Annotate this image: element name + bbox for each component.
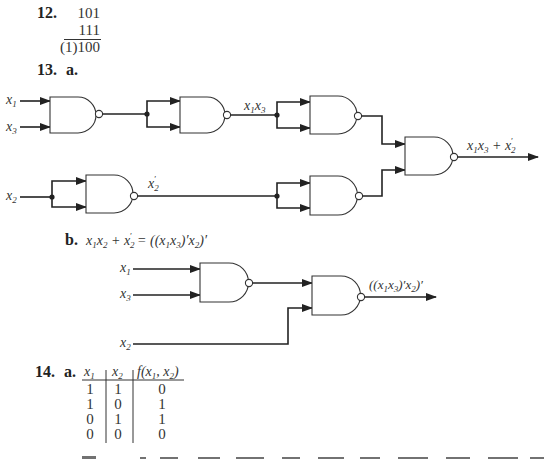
wire-x2: [133, 308, 312, 344]
inverter-bubble: [450, 153, 457, 160]
inverter-bubble: [245, 279, 252, 286]
svg-text:1: 1: [114, 411, 122, 427]
header-f: f(x1, x2): [137, 364, 179, 381]
addend-2: 111: [79, 22, 100, 38]
table-row: 1 1 0: [86, 381, 166, 397]
nand-gate-output: [405, 137, 453, 175]
input-x1-label: x1: [5, 92, 17, 109]
svg-text:0: 0: [114, 396, 122, 412]
part-a-label: a.: [64, 363, 76, 380]
nand-gate-3: [310, 96, 357, 134]
svg-text:0: 0: [86, 411, 94, 427]
input-x3-label: x3: [119, 286, 131, 303]
input-x1-label: x1: [119, 260, 131, 277]
nand-gate-4: [310, 176, 358, 215]
output-label-b: ((x1x3)′x2)′: [369, 277, 423, 294]
wire-g4-out: [363, 170, 405, 196]
problem-14-number: 14.: [35, 363, 55, 380]
table-row: 0 0 0: [86, 426, 166, 442]
part-b-equation: x1x2 + x2′ = ((x1x3)′x2)′: [85, 231, 208, 250]
input-x2-label: x2: [119, 335, 131, 352]
header-x1: x1: [83, 364, 95, 381]
circuit-b: x1 x3 x2 ((x1x3)′x2)′: [119, 260, 436, 352]
x1x3-label: x1x3: [243, 98, 266, 115]
inverter-bubble: [354, 112, 361, 119]
inverter-bubble: [357, 293, 364, 300]
svg-text:1: 1: [86, 396, 94, 412]
inverter-bubble: [355, 192, 362, 199]
problem-13-number: 13.: [37, 61, 57, 78]
nand-gate-1: [50, 97, 96, 133]
nand-gate-b1: [200, 263, 249, 302]
input-x2-label: x2: [5, 188, 17, 205]
svg-text:0: 0: [86, 426, 94, 442]
nand-gate-2: [180, 97, 225, 133]
table-row: 0 1 1: [86, 411, 166, 427]
svg-text:0: 0: [158, 381, 166, 397]
x2-prime-label: x2′: [147, 174, 159, 193]
nand-gate-b2: [312, 276, 361, 315]
problem-12: 12. 101 111 (1)100: [37, 4, 101, 56]
part-b-label: b.: [65, 231, 78, 248]
addend-1: 101: [78, 5, 101, 21]
table-row: 1 0 1: [86, 396, 166, 412]
inverter-bubble: [130, 192, 137, 199]
inverter-bubble: [95, 110, 102, 117]
part-a-label: a.: [66, 61, 78, 78]
svg-text:1: 1: [86, 381, 94, 397]
svg-text:0: 0: [158, 426, 166, 442]
circuit-a: x1 x3 x2 x1x3 x2′: [5, 92, 538, 215]
svg-text:1: 1: [158, 396, 166, 412]
header-x2: x2: [111, 364, 123, 381]
sum: (1)100: [60, 39, 100, 56]
svg-text:0: 0: [114, 426, 122, 442]
input-x3-label: x3: [5, 119, 17, 136]
wire-g3-out: [362, 116, 405, 144]
inverter-bubble: [223, 111, 230, 118]
output-label-a: x1x3 + x2′: [466, 136, 516, 155]
solutions-page: 12. 101 111 (1)100 13. a. x1 x3 x2 x1x3: [0, 0, 547, 459]
truth-table: x1 x2 f(x1, x2) 1 1 0 1 0 1 0 1 1 0 0 0: [82, 364, 184, 443]
nand-gate-x2: [86, 175, 133, 213]
problem-12-number: 12.: [37, 4, 57, 21]
svg-text:1: 1: [114, 381, 122, 397]
svg-text:1: 1: [158, 411, 166, 427]
